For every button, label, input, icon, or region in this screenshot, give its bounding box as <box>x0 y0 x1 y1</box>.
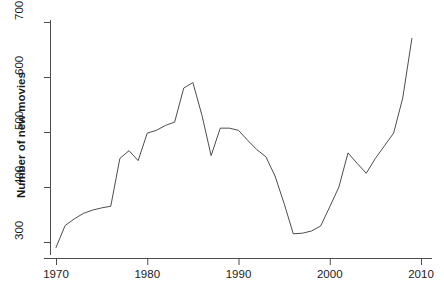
x-tick-label: 1970 <box>31 269 81 281</box>
x-tick-label: 2010 <box>396 269 444 281</box>
y-tick-label: 600 <box>14 56 26 96</box>
y-tick-label: 400 <box>14 166 26 206</box>
chart-plot-area <box>0 0 444 293</box>
y-tick-label: 700 <box>14 1 26 41</box>
x-tick-label: 2000 <box>305 269 355 281</box>
x-tick-label: 1980 <box>122 269 172 281</box>
x-tick-label: 1990 <box>214 269 264 281</box>
y-axis-ticks <box>44 23 51 243</box>
data-series-line <box>56 39 412 248</box>
y-tick-label: 500 <box>14 111 26 151</box>
y-tick-label: 300 <box>14 221 26 261</box>
line-chart: Number of new movies 300400500600700 197… <box>0 0 444 293</box>
x-axis-ticks <box>57 259 422 266</box>
